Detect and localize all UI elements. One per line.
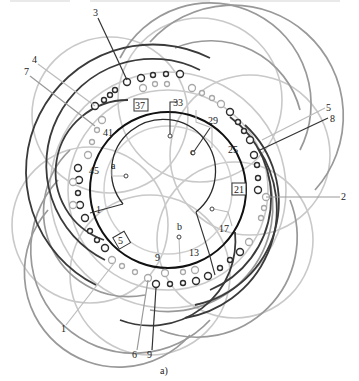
phase-tap-labels: a b c xyxy=(111,146,195,232)
phase-label-b: b xyxy=(177,221,182,232)
slot-label: 17 xyxy=(219,223,229,234)
slot-label: 37 xyxy=(135,100,145,111)
lead-label: 8 xyxy=(330,113,335,124)
lead-label: 3 xyxy=(93,7,98,18)
lead-label: 1 xyxy=(61,323,66,334)
lead-label: 7 xyxy=(24,66,29,77)
slot-label: 9 xyxy=(155,252,160,263)
winding-diagram: a b c 1 5 9 13 17 21 25 29 33 37 41 45 3… xyxy=(0,0,359,381)
phase-label-c: c xyxy=(190,146,195,157)
slot-label: 41 xyxy=(103,127,113,138)
coil-arcs-light xyxy=(12,18,330,355)
slot-label: 5 xyxy=(118,235,123,246)
lead-label: 2 xyxy=(341,191,346,202)
lead-label: 5 xyxy=(326,102,331,113)
slot-label: 45 xyxy=(89,165,99,176)
tap-points xyxy=(124,134,214,239)
phase-label-a: a xyxy=(111,160,116,171)
slot-label: 1 xyxy=(96,204,101,215)
lead-label: 6 xyxy=(132,349,137,360)
lead-label: 9 xyxy=(147,349,152,360)
slot-label: 33 xyxy=(173,97,183,108)
slot-label: 13 xyxy=(189,247,199,258)
slot-label: 21 xyxy=(234,184,244,195)
figure-caption: a) xyxy=(160,365,168,377)
cropped-text-line xyxy=(10,0,340,2)
slot-label: 29 xyxy=(208,115,218,126)
slot-label: 25 xyxy=(228,144,238,155)
lead-label: 4 xyxy=(32,54,37,65)
